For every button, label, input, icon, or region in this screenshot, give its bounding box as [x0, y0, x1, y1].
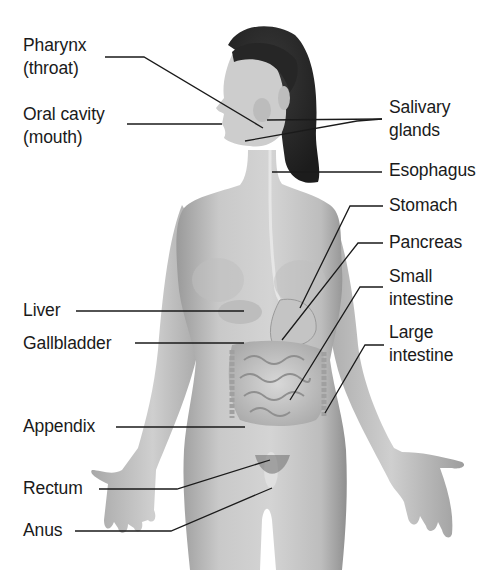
label-gallbladder: Gallbladder [23, 332, 111, 355]
label-line: (throat) [23, 57, 87, 80]
label-pancreas: Pancreas [389, 231, 462, 254]
label-oral-cavity: Oral cavity (mouth) [23, 103, 105, 149]
intestines-shape [229, 341, 327, 426]
label-appendix: Appendix [23, 415, 95, 438]
label-line: Large [389, 321, 453, 344]
ear [278, 86, 290, 110]
label-line: Liver [23, 299, 60, 322]
label-line: intestine [389, 288, 453, 311]
chest-shading [274, 260, 326, 304]
label-line: Anus [23, 519, 63, 542]
label-anus: Anus [23, 519, 63, 542]
label-line: glands [389, 119, 450, 142]
label-line: Oral cavity [23, 103, 105, 126]
label-line: Stomach [389, 194, 457, 217]
label-small-intestine: Small intestine [389, 265, 453, 311]
label-line: Pancreas [389, 231, 462, 254]
label-line: Esophagus [389, 159, 476, 182]
label-salivary-glands: Salivary glands [389, 96, 450, 142]
label-rectum: Rectum [23, 477, 83, 500]
label-line: Appendix [23, 415, 95, 438]
label-stomach: Stomach [389, 194, 457, 217]
label-large-intestine: Large intestine [389, 321, 453, 367]
parotid-gland [253, 98, 271, 122]
label-line: Rectum [23, 477, 83, 500]
label-line: Salivary [389, 96, 450, 119]
label-liver: Liver [23, 299, 60, 322]
label-line: Pharynx [23, 34, 87, 57]
digestive-system-diagram: Pharynx (throat) Oral cavity (mouth) Liv… [0, 0, 494, 570]
label-pharynx: Pharynx (throat) [23, 34, 87, 80]
chest-shading [192, 258, 244, 302]
label-line: Gallbladder [23, 332, 111, 355]
label-line: intestine [389, 344, 453, 367]
label-esophagus: Esophagus [389, 159, 476, 182]
label-line: Small [389, 265, 453, 288]
label-line: (mouth) [23, 126, 105, 149]
liver-shape [218, 300, 262, 324]
